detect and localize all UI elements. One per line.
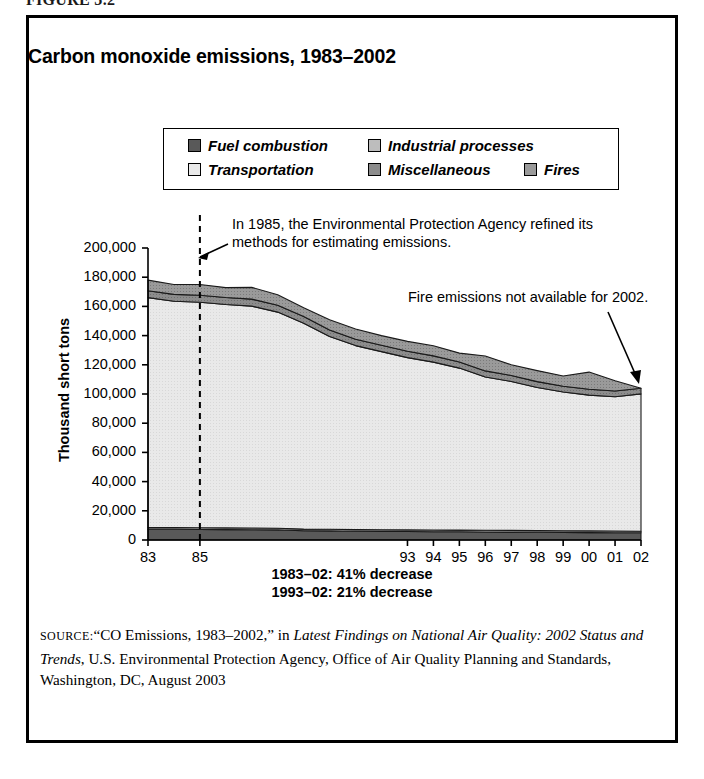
x-tick-label: 83 [133, 549, 163, 565]
x-tick-label: 02 [626, 549, 656, 565]
source-note: SOURCE:“CO Emissions, 1983–2002,” in Lat… [40, 624, 660, 691]
y-tick-label: 20,000 [62, 502, 136, 518]
x-tick-label: 85 [185, 549, 215, 565]
footnote-1983-02: 1983–02: 41% decrease [26, 566, 678, 582]
y-tick-label: 60,000 [62, 443, 136, 459]
area-series-transportation [148, 298, 641, 532]
y-tick-label: 200,000 [62, 239, 136, 255]
source-text-2: , U.S. Environmental Protection Agency, … [40, 650, 611, 689]
y-tick-label: 140,000 [62, 327, 136, 343]
footnote-1993-02: 1993–02: 21% decrease [26, 584, 678, 600]
y-tick-label: 120,000 [62, 356, 136, 372]
y-tick-label: 0 [62, 531, 136, 547]
annotation-epa-1985-line1: In 1985, the Environmental Protection Ag… [232, 216, 593, 234]
y-tick-label: 40,000 [62, 473, 136, 489]
y-tick-label: 180,000 [62, 268, 136, 284]
annotation-epa-1985: In 1985, the Environmental Protection Ag… [232, 216, 593, 251]
y-tick-label: 100,000 [62, 385, 136, 401]
source-label: SOURCE: [40, 629, 93, 643]
annotation-fires-2002: Fire emissions not available for 2002. [408, 289, 648, 307]
annotation-epa-1985-line2: methods for estimating emissions. [232, 234, 593, 252]
y-tick-label: 80,000 [62, 414, 136, 430]
y-tick-label: 160,000 [62, 297, 136, 313]
source-text-1: “CO Emissions, 1983–2002,” in [93, 626, 293, 643]
